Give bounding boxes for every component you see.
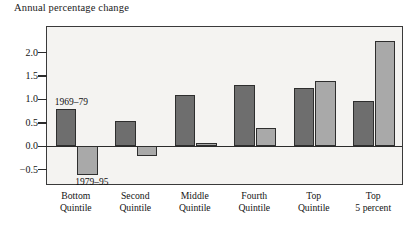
category-label-line: Fourth [238,190,270,202]
category-label-line: Middle [179,190,211,202]
x-axis-category-label: BottomQuintile [60,190,92,213]
x-axis-category-labels: BottomQuintileSecondQuintileMiddleQuinti… [46,188,403,222]
series-annotation-1969-79: 1969–79 [55,97,88,107]
category-label-line: Second [119,190,151,202]
x-axis-category-label: TopQuintile [298,190,330,213]
category-label-line: Quintile [179,202,211,214]
bar-1979-95 [77,146,98,175]
y-axis-tick-label: 1.0 [4,93,38,104]
y-axis-tick [38,146,47,147]
plot-area: 1969–791979–95 [46,26,403,185]
bar-1969-79 [56,109,77,146]
chart-axis-title: Annual percentage change [14,2,129,13]
y-axis-tick-label: 1.5 [4,70,38,81]
y-axis-tick-label: 0.0 [4,140,38,151]
category-label-line: Quintile [60,202,92,214]
y-axis-tick [38,75,47,76]
bar-1979-95 [315,81,336,146]
category-label-line: Quintile [119,202,151,214]
bar-1969-79 [175,95,196,146]
bar-1979-95 [196,143,217,147]
zero-baseline [47,146,402,147]
bar-1969-79 [234,85,255,146]
y-axis-tick [38,169,47,170]
x-axis-category-label: Top5 percent [355,190,391,213]
plot-inner: 1969–791979–95 [47,27,402,184]
bar-1969-79 [115,121,136,147]
category-label-line: Top [355,190,391,202]
category-label-line: Quintile [238,202,270,214]
bar-1979-95 [256,128,277,147]
bar-1969-79 [294,88,315,146]
x-axis-category-label: FourthQuintile [238,190,270,213]
y-axis-tick [38,99,47,100]
y-axis-tick-label: 0.5 [4,116,38,127]
x-axis-category-label: MiddleQuintile [179,190,211,213]
chart-figure: Annual percentage change −0.50.00.51.01.… [0,0,420,226]
y-axis-tick [38,52,47,53]
series-annotation-1979-95: 1979–95 [75,177,108,187]
category-label-line: Top [298,190,330,202]
category-label-line: Bottom [60,190,92,202]
y-axis-tick-label: −0.5 [4,163,38,174]
x-axis-category-label: SecondQuintile [119,190,151,213]
category-label-line: 5 percent [355,202,391,214]
bar-1979-95 [137,146,158,155]
bar-1979-95 [375,41,396,146]
bar-1969-79 [353,101,374,146]
category-label-line: Quintile [298,202,330,214]
y-axis-tick [38,122,47,123]
y-axis-tick-label: 2.0 [4,46,38,57]
